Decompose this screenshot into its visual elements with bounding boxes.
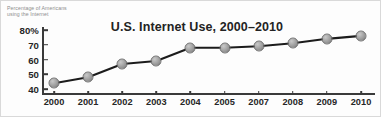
data-point-marker (49, 78, 60, 89)
x-tick-mark (121, 91, 123, 95)
x-tick-label: 2007 (248, 97, 269, 107)
data-point-marker (151, 56, 162, 67)
x-tick-label: 2000 (44, 97, 65, 107)
x-tick-mark (190, 91, 192, 95)
x-tick-mark (87, 91, 89, 95)
y-tick-label: 40 (13, 84, 39, 95)
x-tick-label: 2003 (146, 97, 167, 107)
y-tick-mark (42, 59, 48, 61)
x-tick-mark (224, 91, 226, 95)
x-tick-label: 2009 (317, 97, 338, 107)
data-point-marker (83, 72, 94, 83)
y-tick-label: 80% (13, 24, 39, 35)
x-axis-tick-labels: 2000200120022003200420052007200820092010 (42, 97, 375, 111)
x-tick-mark (326, 91, 328, 95)
x-tick-label: 2010 (351, 97, 372, 107)
x-tick-label: 2004 (180, 97, 201, 107)
y-axis-tick-labels: 80%70605040 (13, 1, 39, 117)
data-point-marker (117, 58, 128, 69)
data-point-marker (321, 33, 332, 44)
data-point-marker (287, 38, 298, 49)
y-tick-label: 60 (13, 54, 39, 65)
data-point-marker (356, 30, 367, 41)
x-tick-mark (292, 91, 294, 95)
x-tick-mark (360, 91, 362, 95)
y-tick-mark (42, 29, 48, 31)
data-point-marker (219, 42, 230, 53)
data-point-marker (253, 41, 264, 52)
chart-figure: Percentage of Americans using the Intern… (0, 0, 381, 117)
y-tick-mark (42, 74, 48, 76)
plot-area (42, 27, 375, 95)
x-tick-label: 2002 (112, 97, 133, 107)
y-tick-mark (42, 88, 48, 90)
x-tick-mark (156, 91, 158, 95)
y-tick-label: 50 (13, 69, 39, 80)
y-tick-label: 70 (13, 39, 39, 50)
y-tick-mark (42, 44, 48, 46)
x-tick-label: 2008 (282, 97, 303, 107)
x-tick-label: 2001 (78, 97, 99, 107)
x-tick-mark (258, 91, 260, 95)
x-tick-label: 2005 (214, 97, 235, 107)
x-tick-mark (53, 91, 55, 95)
data-point-marker (185, 42, 196, 53)
